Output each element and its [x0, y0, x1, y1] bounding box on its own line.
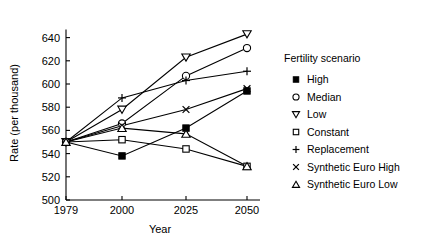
legend-item-median[interactable]: Median [293, 91, 342, 103]
x-tick-label: 2050 [235, 204, 259, 216]
marker-filled-square [119, 153, 125, 159]
legend-item-constant[interactable]: Constant [293, 126, 349, 138]
y-axis-title: Rate (per thousand) [8, 64, 20, 162]
legend-title: Fertility scenario [284, 52, 361, 64]
marker-filled-square [293, 77, 298, 82]
marker-cross [293, 164, 299, 170]
series-median [66, 48, 247, 142]
x-axis-ticks [66, 196, 247, 200]
marker-open-square [183, 146, 189, 152]
chart-canvas: 500520540560580600620640 197920002025205… [0, 0, 422, 251]
y-tick-label: 620 [42, 55, 60, 67]
x-tick-label: 2025 [174, 204, 198, 216]
legend-item-synthetic-euro-high[interactable]: Synthetic Euro High [293, 161, 400, 173]
marker-cross [183, 106, 190, 113]
y-tick-label: 600 [42, 78, 60, 90]
legend-item-label: High [307, 73, 329, 85]
x-tick-label: 1979 [54, 204, 78, 216]
legend-item-label: Synthetic Euro Low [307, 178, 398, 190]
legend-item-label: Replacement [307, 143, 369, 155]
fertility-scenario-chart: 500520540560580600620640 197920002025205… [0, 0, 422, 251]
y-tick-label: 540 [42, 148, 60, 160]
x-tick-labels: 1979200020252050 [54, 204, 259, 216]
series-layer [62, 31, 251, 170]
y-tick-label: 560 [42, 124, 60, 136]
series-constant [66, 140, 247, 167]
marker-open-square [119, 136, 125, 142]
y-tick-label: 520 [42, 171, 60, 183]
legend-item-label: Constant [307, 126, 349, 138]
legend-item-high[interactable]: High [293, 73, 328, 85]
marker-open-down-triangle [243, 31, 251, 38]
x-axis-title: Year [149, 223, 172, 235]
legend-item-label: Low [307, 108, 327, 120]
legend-item-replacement[interactable]: Replacement [293, 143, 369, 155]
legend: HighMedianLowConstantReplacementSyntheti… [292, 73, 400, 190]
legend-item-label: Synthetic Euro High [307, 161, 400, 173]
marker-open-down-triangle [292, 112, 299, 118]
y-tick-label: 580 [42, 101, 60, 113]
marker-open-down-triangle [118, 106, 126, 113]
marker-open-circle [243, 44, 250, 51]
marker-open-circle [293, 94, 299, 100]
y-tick-labels: 500520540560580600620640 [42, 32, 60, 206]
marker-open-up-triangle [292, 181, 299, 187]
series-synthetic-euro-high [66, 89, 247, 142]
legend-item-label: Median [307, 91, 342, 103]
y-axis-ticks [66, 38, 70, 200]
marker-plus [293, 146, 300, 153]
marker-plus [243, 67, 251, 75]
y-tick-label: 640 [42, 32, 60, 44]
marker-open-square [293, 129, 298, 134]
legend-item-low[interactable]: Low [292, 108, 326, 120]
x-tick-label: 2000 [110, 204, 134, 216]
legend-item-synthetic-euro-low[interactable]: Synthetic Euro Low [292, 178, 397, 190]
series-high [66, 91, 247, 156]
